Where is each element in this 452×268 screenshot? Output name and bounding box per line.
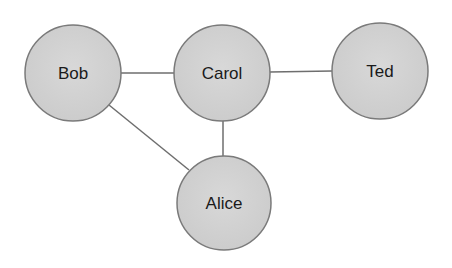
- node-carol-label: Carol: [202, 64, 243, 83]
- node-alice-label: Alice: [206, 194, 243, 213]
- network-graph: Bob Carol Ted Alice: [0, 0, 452, 268]
- node-ted[interactable]: Ted: [332, 23, 428, 119]
- edge-bob-alice: [109, 105, 189, 170]
- node-ted-label: Ted: [366, 62, 393, 81]
- nodes-layer: Bob Carol Ted Alice: [25, 23, 428, 250]
- edge-carol-ted: [270, 71, 332, 72]
- node-alice[interactable]: Alice: [177, 156, 271, 250]
- node-bob-label: Bob: [58, 64, 88, 83]
- node-carol[interactable]: Carol: [174, 25, 270, 121]
- node-bob[interactable]: Bob: [25, 25, 121, 121]
